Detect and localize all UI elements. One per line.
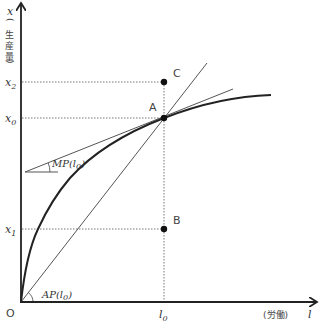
point-c	[161, 79, 167, 85]
point-a-label: A	[149, 101, 157, 114]
mp-angle-arc	[48, 163, 50, 172]
tick-x0: x0	[5, 112, 16, 127]
guide-lines	[22, 82, 164, 302]
point-b-label: B	[173, 214, 181, 227]
production-function-curve	[21, 95, 271, 302]
y-axis-label-char: 産	[5, 40, 14, 51]
y-axis-label-open: (	[5, 18, 15, 22]
x-axis-variable: l	[308, 308, 312, 321]
tick-x1: x1	[5, 223, 16, 238]
origin-label: O	[6, 307, 15, 320]
y-axis-label-char: 生	[5, 29, 14, 40]
mp-annotation: MP(l0)	[51, 158, 85, 171]
point-b	[161, 226, 167, 232]
ap-annotation: AP(l0)	[41, 289, 72, 302]
ap-angle-arc	[28, 293, 33, 302]
x-axis-label: (労働)	[263, 309, 288, 320]
y-axis-label: ( 生 産 量 )	[5, 18, 15, 64]
production-function-diagram: A B C x ( 生 産 量 ) x2 x0 x1 l0 O (労働) l M…	[0, 0, 320, 329]
y-axis-label-close: )	[5, 60, 15, 64]
average-product-ray	[21, 63, 207, 302]
point-c-label: C	[173, 67, 181, 80]
tick-x2: x2	[5, 76, 16, 91]
tick-l0: l0	[159, 308, 168, 323]
y-axis-variable: x	[7, 5, 14, 18]
point-a	[161, 115, 167, 121]
